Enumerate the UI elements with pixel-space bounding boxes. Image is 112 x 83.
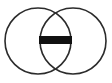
minus-bar (39, 36, 72, 44)
venn-diagram-svg (0, 0, 112, 83)
boolean-subtract-icon-canvas[interactable]: Subtract (0, 0, 112, 83)
